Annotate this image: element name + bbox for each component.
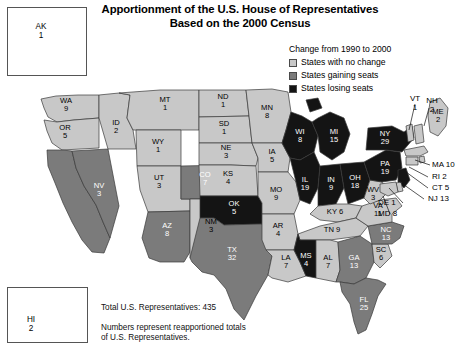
- state-ct: [406, 157, 418, 165]
- legend-swatch-no-change: [289, 59, 297, 67]
- state-ar: [262, 214, 298, 250]
- state-callout-ri: RI 2: [432, 172, 472, 181]
- legend-label-no-change: States with no change: [301, 58, 386, 67]
- state-callout-ma: MA 10: [432, 160, 472, 169]
- state-al: [316, 240, 340, 282]
- state-callout-vt: VT1: [406, 94, 424, 112]
- alaska-inset-box: [7, 7, 87, 76]
- state-ga: [336, 236, 374, 284]
- legend-title: Change from 1990 to 2000: [289, 44, 469, 54]
- state-callout-ct: CT 5: [432, 183, 472, 192]
- alaska-label: AK1: [26, 22, 56, 40]
- state-nd: [199, 90, 249, 117]
- hawaii-label: HI2: [18, 315, 44, 333]
- state-fl: [340, 278, 386, 334]
- state-wa: [41, 95, 99, 122]
- note-caption: Numbers represent reapportioned totals o…: [101, 323, 251, 342]
- state-pa: [364, 150, 402, 182]
- legend: Change from 1990 to 2000 States with no …: [289, 44, 469, 96]
- state-callout-nh: NH2: [423, 96, 441, 114]
- legend-label-gaining: States gaining seats: [301, 71, 378, 80]
- state-or: [44, 118, 99, 150]
- state-wy: [136, 130, 181, 166]
- state-ks: [199, 165, 258, 196]
- apportionment-map-figure: Apportionment of the U.S. House of Repre…: [0, 0, 475, 352]
- legend-item-gaining: States gaining seats: [289, 70, 469, 81]
- state-ne: [199, 143, 258, 166]
- state-callout-nj: NJ 13: [428, 194, 472, 203]
- state-in: [318, 164, 344, 206]
- state-sd: [199, 116, 252, 143]
- legend-swatch-losing: [289, 85, 297, 93]
- state-sc: [372, 244, 392, 268]
- state-nh: [414, 124, 424, 144]
- total-representatives-caption: Total U.S. Representatives: 435: [101, 303, 216, 313]
- state-az: [142, 211, 190, 262]
- legend-swatch-gaining: [289, 72, 297, 80]
- legend-label-losing: States losing seats: [301, 84, 373, 93]
- state-mt: [119, 90, 199, 130]
- state-ma: [404, 146, 428, 156]
- state-callout-md: MD 8: [378, 209, 418, 218]
- state-mo: [258, 172, 300, 214]
- state-callout-de: DE 1: [378, 198, 418, 207]
- legend-item-losing: States losing seats: [289, 83, 469, 94]
- legend-item-no-change: States with no change: [289, 57, 469, 68]
